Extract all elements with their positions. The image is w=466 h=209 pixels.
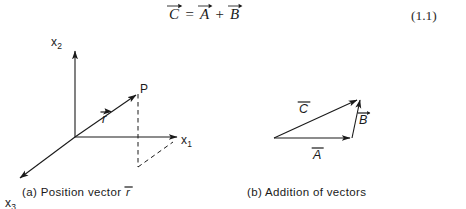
vector-b-symbol: B: [358, 113, 368, 127]
vector-c-symbol: C: [168, 6, 180, 23]
vector-r-symbol: r: [125, 186, 131, 198]
axis-label-x2: x2: [51, 35, 62, 49]
vector-label-b: B: [358, 113, 368, 127]
equation-operand-1: A: [200, 6, 209, 22]
vector-label-c: C: [298, 102, 309, 116]
page-canvas: C = A + B (1.1): [0, 0, 466, 209]
figure-a-caption: (a) Position vector r: [22, 186, 131, 198]
figure-b-caption: (b) Addition of vectors: [247, 186, 366, 198]
vector-sum-equation: C = A + B: [168, 6, 240, 23]
vector-a-symbol: A: [199, 6, 210, 23]
axis-label-x1: x1: [181, 133, 192, 147]
caption-text: Addition of vectors: [265, 186, 366, 198]
equation-number: (1.1): [411, 8, 437, 24]
projection-dashed-diagonal: [138, 142, 173, 167]
vector-b-symbol: B: [229, 6, 240, 23]
figure-vector-addition: C B A (b) Addition of vectors: [240, 30, 466, 209]
equation-lhs: C: [169, 6, 179, 22]
vector-label-r: r: [101, 112, 107, 126]
equation-relation: =: [184, 6, 194, 22]
equation-operator: +: [214, 6, 224, 22]
axis-x3: [20, 137, 75, 178]
vector-c-arrow: [274, 100, 357, 138]
point-label-p: P: [140, 82, 148, 96]
figure-a-drawing: [0, 30, 220, 209]
vector-r-symbol: r: [101, 112, 107, 126]
caption-prefix: (b): [247, 186, 262, 198]
axis-label-x3: x3: [5, 196, 16, 209]
equation-row: C = A + B (1.1): [0, 4, 466, 32]
vector-a-symbol: A: [312, 148, 322, 162]
vector-label-a: A: [312, 148, 322, 162]
figure-b-drawing: [240, 30, 466, 209]
equation-operand-2: B: [230, 6, 239, 22]
caption-prefix: (a): [22, 186, 37, 198]
vector-c-symbol: C: [298, 102, 309, 116]
figure-position-vector: x2 x1 x3 P r (a) Position vector r: [0, 30, 220, 209]
caption-text: Position vector: [41, 186, 122, 198]
